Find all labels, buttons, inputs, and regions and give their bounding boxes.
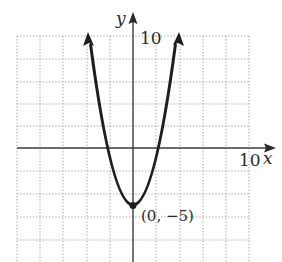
- x-axis-label: x: [263, 148, 273, 168]
- vertex-label: (0, −5): [141, 207, 194, 225]
- vertex-point: [130, 202, 137, 209]
- parabola-graph: y 10 10 x (0, −5): [0, 0, 282, 262]
- y-axis-label: y: [115, 8, 126, 28]
- left-curve-arrow-icon: [83, 32, 94, 46]
- y-tick-label: 10: [140, 28, 162, 48]
- axes: [17, 20, 270, 262]
- right-curve-arrow-icon: [173, 32, 184, 46]
- x-tick-label: 10: [239, 150, 261, 170]
